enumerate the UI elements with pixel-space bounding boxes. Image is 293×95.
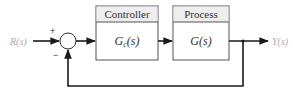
summing-junction: [60, 33, 76, 49]
plus-sign: +: [50, 26, 55, 36]
process-header: Process: [184, 8, 218, 20]
controller-transfer-function: Gc(s): [115, 34, 140, 49]
process-block: Process G(s): [173, 6, 229, 60]
controller-header: Controller: [104, 8, 150, 20]
process-transfer-function: G(s): [190, 34, 211, 48]
minus-sign: −: [53, 50, 58, 60]
controller-block: Controller Gc(s): [96, 6, 158, 60]
output-label: Y(s): [272, 36, 289, 48]
block-diagram: R(s) + − Controller Gc(s) Process G(s) Y…: [0, 0, 293, 95]
input-label: R(s): [9, 36, 27, 48]
